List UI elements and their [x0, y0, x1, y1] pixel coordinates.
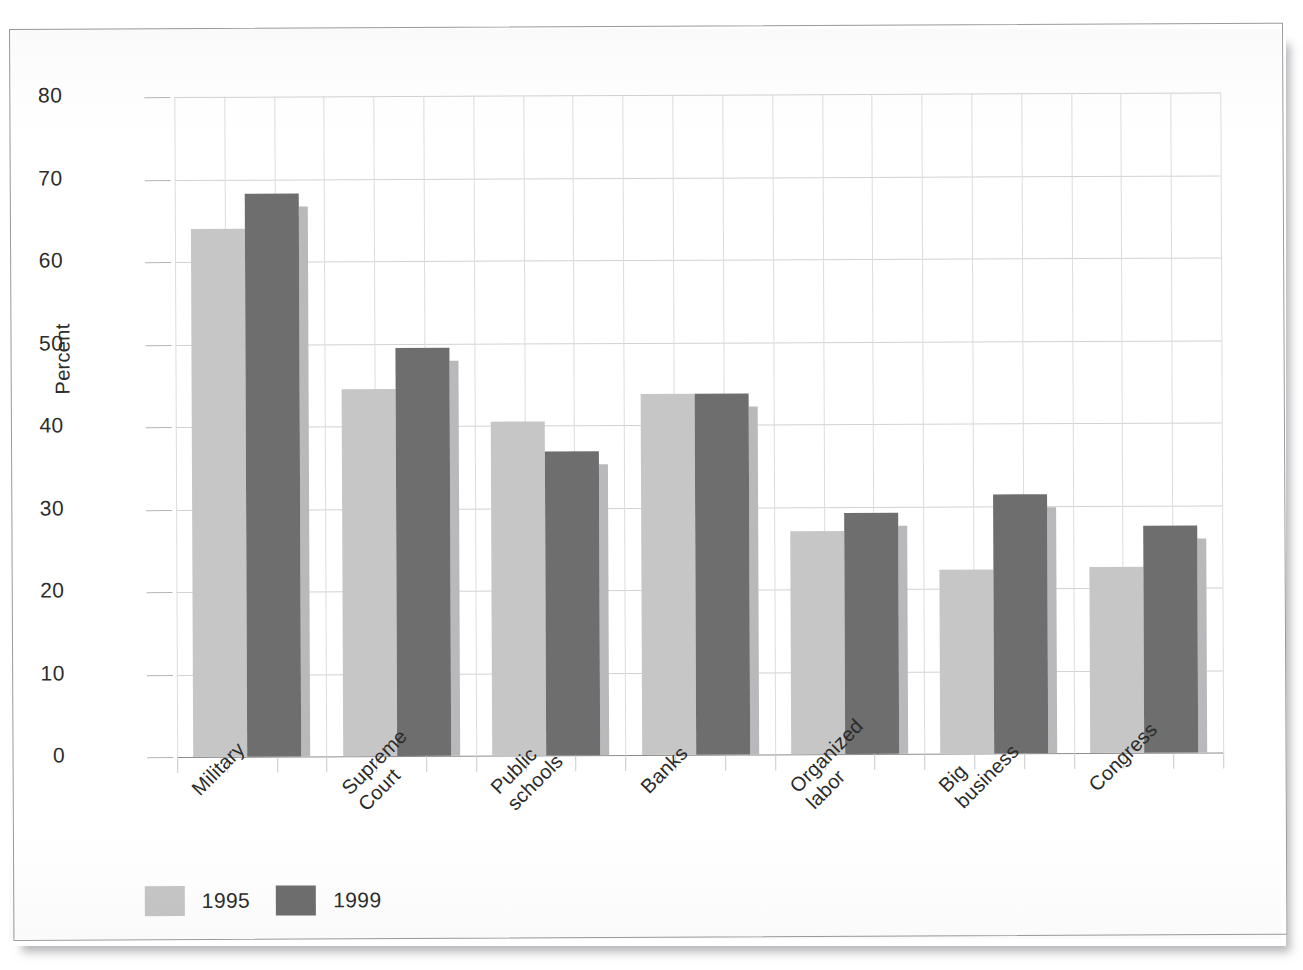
bar-supreme-court-1999	[395, 347, 451, 756]
y-tick-mark-10	[147, 675, 173, 676]
gridline-y-70	[175, 175, 1221, 181]
y-tick-label-50: 50	[3, 331, 63, 355]
legend-item-1995[interactable]: 1995	[145, 886, 250, 916]
y-tick-label-70: 70	[3, 166, 63, 190]
gridline-x-21	[1220, 92, 1224, 752]
bar-public-schools-1999	[545, 452, 600, 756]
x-tick-mark-12	[775, 754, 776, 770]
x-tick-mark-9	[625, 755, 626, 771]
x-tick-mark-18	[1074, 753, 1075, 769]
legend-swatch-1995	[145, 886, 185, 916]
bar-shadow-2	[599, 465, 609, 756]
gridline-y-50	[175, 340, 1221, 346]
bar-chart: Percent 01020304050607080 MilitarySuprem…	[0, 0, 1303, 970]
gridline-y-60	[175, 257, 1221, 263]
x-tick-mark-0	[177, 757, 178, 773]
plot-area	[174, 92, 1223, 757]
y-tick-mark-70	[145, 180, 171, 181]
x-tick-mark-21	[1223, 752, 1224, 768]
x-tick-mark-15	[924, 754, 925, 770]
bar-military-1995	[191, 229, 247, 757]
bar-banks-1999	[694, 393, 750, 755]
bar-shadow-1	[449, 360, 460, 755]
y-tick-mark-40	[146, 427, 172, 428]
y-tick-mark-80	[144, 97, 170, 98]
y-tick-label-10: 10	[5, 661, 65, 685]
legend-swatch-1999	[276, 885, 316, 915]
y-tick-mark-30	[146, 510, 172, 511]
legend-label-1999: 1999	[333, 888, 381, 912]
gridline-y-80	[174, 92, 1220, 98]
bar-military-1999	[245, 194, 301, 757]
bar-shadow-5	[1047, 507, 1057, 753]
x-tick-mark-2	[277, 757, 278, 773]
bar-big-business-1999	[993, 494, 1048, 753]
y-tick-mark-60	[145, 262, 171, 263]
bar-shadow-6	[1197, 539, 1207, 753]
x-tick-mark-3	[327, 756, 328, 772]
scanned-page: Percent 01020304050607080 MilitarySuprem…	[0, 0, 1303, 970]
y-tick-label-60: 60	[3, 249, 63, 273]
y-tick-mark-50	[145, 345, 171, 346]
bar-congress-1995	[1089, 567, 1144, 753]
y-tick-label-20: 20	[4, 579, 64, 603]
y-tick-mark-0	[147, 757, 173, 758]
x-tick-mark-8	[576, 755, 577, 771]
bar-banks-1995	[640, 393, 696, 755]
horizontal-gridlines	[174, 92, 1220, 97]
bar-supreme-court-1995	[341, 389, 397, 756]
y-tick-mark-20	[146, 592, 172, 593]
bar-organized-labor-1995	[790, 531, 845, 754]
x-tick-mark-6	[476, 756, 477, 772]
x-tick-mark-20	[1173, 753, 1174, 769]
x-axis-labels: MilitarySupreme CourtPublic schoolsBanks…	[0, 0, 1301, 3]
bar-big-business-1995	[940, 569, 995, 753]
bar-congress-1999	[1143, 526, 1198, 753]
bar-shadow-3	[748, 406, 759, 754]
x-tick-mark-11	[725, 755, 726, 771]
chart-legend: 19951999	[145, 885, 382, 916]
y-tick-label-30: 30	[4, 496, 64, 520]
y-tick-label-40: 40	[4, 414, 64, 438]
bar-public-schools-1995	[491, 421, 546, 755]
legend-label-1995: 1995	[202, 889, 250, 913]
y-tick-label-0: 0	[5, 744, 65, 768]
y-tick-label-80: 80	[2, 84, 62, 108]
bar-shadow-4	[898, 526, 908, 754]
y-axis-ticks: 01020304050607080	[0, 0, 1301, 3]
legend-item-1999[interactable]: 1999	[276, 885, 381, 915]
